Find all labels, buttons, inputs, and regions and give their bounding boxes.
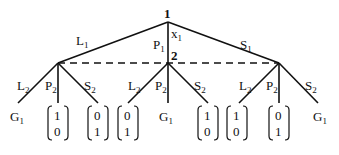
move-label-L2-mid: L2 (128, 78, 140, 95)
payoff-vector: 1 0 (48, 106, 68, 140)
payoff-vector: 1 0 (198, 106, 218, 140)
leaf-game-G1-right: G1 (313, 109, 327, 126)
svg-text:1: 1 (233, 108, 240, 123)
leaf-game-G1-mid: G1 (159, 109, 173, 126)
edge-S1 (168, 22, 279, 63)
payoff-vector: 0 1 (118, 106, 138, 140)
move-label-L2-right: L2 (239, 78, 251, 95)
game-tree-diagram: 1 2 x1 L1 P1 S1 L2 P2 S2 L2 P2 S2 L2 P2 … (0, 0, 339, 155)
move-label-P2-left: P2 (45, 78, 57, 95)
move-label-P2-mid: P2 (155, 78, 167, 95)
svg-text:0: 0 (94, 108, 101, 123)
payoff-vector: 1 0 (227, 106, 247, 140)
move-label-S2-mid: S2 (194, 78, 206, 95)
move-label-L1: L1 (76, 33, 88, 50)
svg-text:1: 1 (124, 124, 131, 139)
svg-text:0: 0 (54, 124, 61, 139)
svg-text:0: 0 (204, 124, 211, 139)
leaf-game-G1-left: G1 (10, 109, 24, 126)
node-player-1: 1 (164, 6, 171, 21)
svg-text:0: 0 (275, 108, 282, 123)
svg-text:1: 1 (204, 108, 211, 123)
svg-text:1: 1 (275, 124, 282, 139)
move-label-S1: S1 (240, 37, 252, 54)
move-label-S2-right: S2 (305, 78, 317, 95)
edge-L1 (58, 22, 168, 63)
move-label-P2-right: P2 (266, 78, 278, 95)
edge-S2-mid (168, 63, 208, 103)
edge-S2-left (58, 63, 98, 103)
svg-text:0: 0 (124, 108, 131, 123)
node-root-x-label: x1 (171, 26, 182, 43)
svg-text:1: 1 (54, 108, 61, 123)
payoff-vector: 0 1 (88, 106, 108, 140)
move-label-P1: P1 (153, 37, 165, 54)
move-label-S2-left: S2 (84, 78, 96, 95)
svg-text:0: 0 (233, 124, 240, 139)
payoff-vector: 0 1 (269, 106, 289, 140)
svg-text:1: 1 (94, 124, 101, 139)
node-player-2: 2 (171, 48, 178, 63)
move-label-L2-left: L2 (17, 78, 29, 95)
